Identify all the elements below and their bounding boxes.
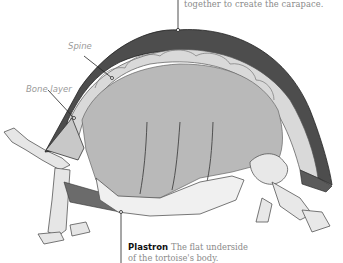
plastron-term: Plastron xyxy=(128,242,168,252)
plastron-desc-line1: The flat underside xyxy=(171,242,248,252)
carapace-caption: together to create the carapace. xyxy=(184,0,323,9)
tortoise-illustration xyxy=(0,0,343,263)
plastron-caption: PlastronThe flat underside of the tortoi… xyxy=(128,242,248,263)
bone-layer-label: Bone layer xyxy=(26,84,72,94)
tortoise-diagram: together to create the carapace. Spine B… xyxy=(0,0,343,263)
spine-label: Spine xyxy=(68,41,92,51)
bone-layer-leader xyxy=(48,90,74,118)
plastron-desc-line2: of the tortoise's body. xyxy=(128,253,218,263)
body-cavity xyxy=(82,64,283,198)
